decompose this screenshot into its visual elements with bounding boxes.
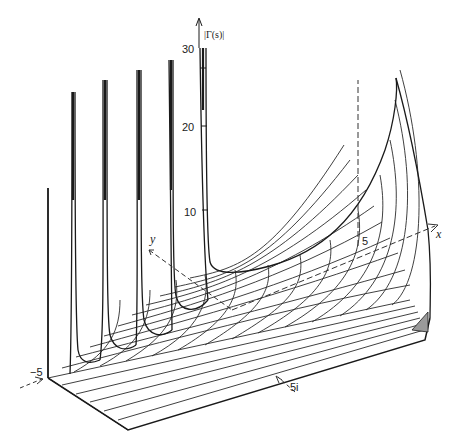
x-axis (232, 80, 438, 310)
gamma-surface-plot (0, 0, 467, 433)
shaded-facet (412, 312, 428, 332)
y-axis-label: y (150, 233, 155, 245)
surface-outline (48, 188, 430, 430)
z-axis-label: |Γ(s)| (204, 30, 224, 40)
z-tick-30: 30 (182, 44, 194, 55)
z-tick-10: 10 (184, 207, 196, 218)
x-tick-5: 5 (362, 236, 368, 247)
x-tick-neg5: −5 (30, 367, 43, 378)
x-axis-label: x (436, 228, 441, 240)
y-tick-5i: 5i (290, 382, 299, 393)
neg5-pointer (20, 377, 43, 388)
z-tick-20: 20 (182, 122, 194, 133)
